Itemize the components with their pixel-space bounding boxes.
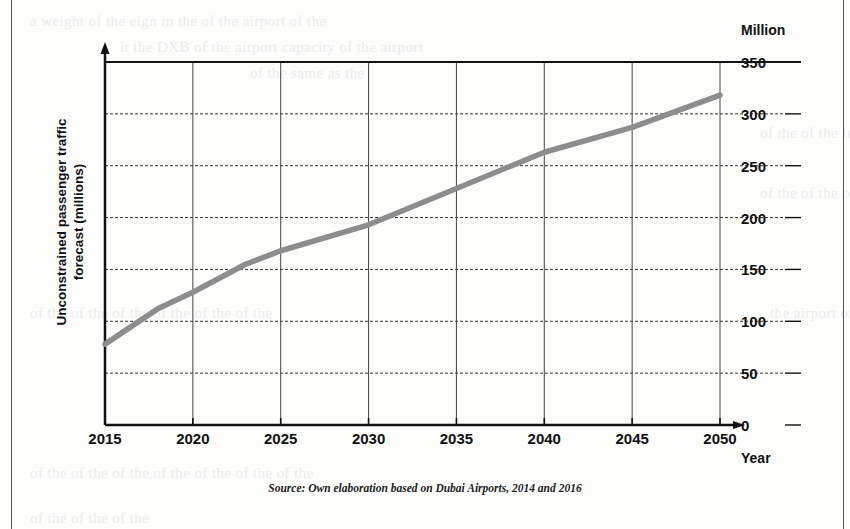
x-axis-tick-label: 2030 bbox=[352, 430, 385, 447]
chart-plot-area bbox=[0, 0, 850, 529]
y-axis-tick-label: 250 bbox=[741, 157, 766, 174]
chart-figure: Unconstrained passenger traffic forecast… bbox=[0, 0, 850, 529]
y-axis-tick-label: 200 bbox=[741, 209, 766, 226]
chart-gridlines bbox=[105, 62, 785, 425]
y-axis-tick-label: 150 bbox=[741, 261, 766, 278]
x-axis-tick-label: 2040 bbox=[528, 430, 561, 447]
x-axis-tick-label: 2045 bbox=[615, 430, 648, 447]
y-axis-tick-label: 300 bbox=[741, 105, 766, 122]
chart-frame bbox=[101, 42, 786, 429]
source-caption: Source: Own elaboration based on Dubai A… bbox=[0, 482, 850, 494]
x-axis-tick-label: 2020 bbox=[176, 430, 209, 447]
y-axis-tick-label: 0 bbox=[741, 417, 749, 434]
x-axis-tick-label: 2025 bbox=[264, 430, 297, 447]
y-axis-tick-label: 50 bbox=[741, 365, 758, 382]
chart-tick-marks bbox=[105, 62, 801, 425]
scanned-page: a weight of the eign in the of the airpo… bbox=[0, 0, 850, 529]
chart-data-line bbox=[105, 95, 720, 344]
x-axis-tick-label: 2035 bbox=[440, 430, 473, 447]
x-axis-tick-label: 2050 bbox=[703, 430, 736, 447]
y-axis-tick-label: 100 bbox=[741, 313, 766, 330]
x-axis-tick-label: 2015 bbox=[88, 430, 121, 447]
y-axis-tick-label: 350 bbox=[741, 54, 766, 71]
